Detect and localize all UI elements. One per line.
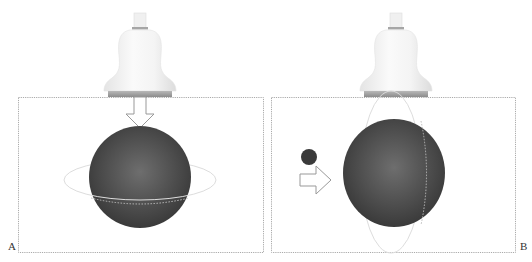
diagram-canvas bbox=[0, 0, 532, 262]
transducer-a bbox=[104, 13, 176, 97]
panel-b-label: B bbox=[520, 240, 527, 252]
panel-a bbox=[19, 13, 264, 253]
sphere-a bbox=[89, 126, 191, 228]
transducer-b bbox=[360, 13, 432, 97]
impactor-ball bbox=[301, 149, 317, 165]
panel-b bbox=[272, 13, 516, 253]
panel-a-label: A bbox=[8, 240, 16, 252]
arrow-right-icon bbox=[300, 166, 331, 194]
sphere-b bbox=[343, 119, 445, 227]
arrow-down-icon bbox=[126, 97, 154, 128]
